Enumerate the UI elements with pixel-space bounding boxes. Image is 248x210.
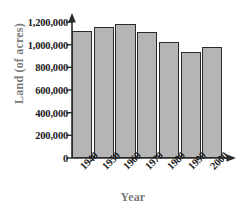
y-tick-label: 1,000,000 bbox=[2, 39, 68, 50]
x-axis-title: Year bbox=[78, 190, 188, 205]
x-axis-tick-labels: 1940195019601970198019902000 bbox=[72, 158, 224, 192]
bar-series bbox=[72, 22, 224, 158]
y-tick-label: 0 bbox=[2, 153, 68, 164]
bar bbox=[137, 32, 157, 158]
y-tick-label: 200,000 bbox=[2, 130, 68, 141]
bar bbox=[159, 42, 179, 158]
bar bbox=[115, 24, 135, 158]
bar bbox=[181, 52, 201, 158]
y-tick-label: 1,200,000 bbox=[2, 17, 68, 28]
y-tick-label: 800,000 bbox=[2, 62, 68, 73]
bar-chart: Land (of acres) 0 200,000 400,000 600,00… bbox=[0, 0, 248, 210]
bar bbox=[94, 27, 114, 158]
y-axis-tick-labels: 0 200,000 400,000 600,000 800,000 1,000,… bbox=[0, 22, 68, 158]
y-tick-label: 600,000 bbox=[2, 85, 68, 96]
bar bbox=[72, 31, 92, 158]
y-tick-label: 400,000 bbox=[2, 107, 68, 118]
plot-area bbox=[72, 22, 224, 158]
bar bbox=[202, 47, 222, 158]
